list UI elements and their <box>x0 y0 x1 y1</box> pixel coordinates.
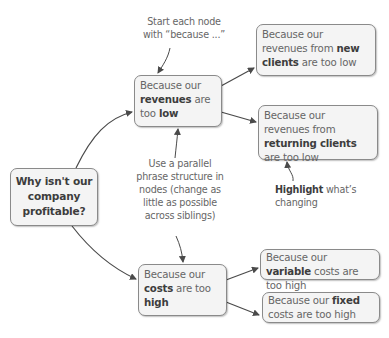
root-node: Why isn't our company profitable? <box>10 168 98 226</box>
annotation-line: what’s <box>326 184 356 195</box>
annotation-start-because: Start each node with “because ...” <box>128 15 240 41</box>
annotation-arrow-parallel-up <box>175 129 178 158</box>
node-revenues: Because our revenues are too low <box>134 75 222 127</box>
annotation-line: Start each node <box>128 15 240 28</box>
node-text: Because our <box>144 269 205 280</box>
annotation-line: changing <box>275 196 375 209</box>
arrow-root-to-costs <box>72 226 136 279</box>
highlight-text: fixed <box>332 295 360 306</box>
arrow-revenues-to-new <box>221 68 254 86</box>
node-text: are too low <box>299 57 357 68</box>
node-new-clients: Because our revenues from new clients ar… <box>256 24 376 76</box>
annotation-line: nodes (change as <box>128 183 232 196</box>
annotation-line: little as possible <box>128 196 232 209</box>
node-variable-costs: Because our variable costs are too high <box>260 249 380 280</box>
arrow-root-to-revenues <box>76 112 132 168</box>
node-text: Because our <box>268 295 332 306</box>
node-returning-clients: Because our revenues from returning clie… <box>258 105 378 160</box>
annotation-line: across siblings) <box>128 209 232 222</box>
root-line-2: company <box>14 189 94 204</box>
node-text: Because our <box>140 80 201 91</box>
annotation-line: Use a parallel <box>128 157 232 170</box>
node-text: costs are too high <box>268 309 356 320</box>
node-text: Because our <box>266 252 327 263</box>
annotation-arrow-parallel-down <box>176 236 183 262</box>
node-text: are too low <box>264 152 319 163</box>
annotation-line: with “because ...” <box>128 28 240 41</box>
annotation-highlight: Highlight what’s changing <box>275 183 375 209</box>
annotation-arrow-start <box>158 48 170 73</box>
annotation-parallel-structure: Use a parallel phrase structure in nodes… <box>128 157 232 222</box>
highlight-text: returning clients <box>264 138 357 149</box>
annotation-line: phrase structure in <box>128 170 232 183</box>
arrow-costs-to-fixed <box>226 302 259 315</box>
highlight-text: variable <box>266 266 311 277</box>
node-costs: Because our costs are too high <box>138 264 227 316</box>
root-line-1: Why isn't our <box>14 174 94 189</box>
highlight-text: high <box>144 297 169 308</box>
root-line-3: profitable? <box>14 204 94 219</box>
highlight-text: low <box>159 108 178 119</box>
highlight-text: costs <box>144 283 173 294</box>
annotation-bold: Highlight <box>275 184 323 195</box>
highlight-text: revenues <box>140 94 191 105</box>
node-text: are too <box>173 283 211 294</box>
issue-tree-diagram: Why isn't our company profitable? Becaus… <box>0 0 389 338</box>
node-text: Because our revenues from <box>262 29 336 54</box>
arrow-revenues-to-returning <box>221 112 256 122</box>
arrow-costs-to-variable <box>226 268 258 280</box>
node-text: Because our revenues from <box>264 110 335 135</box>
node-fixed-costs: Because our fixed costs are too high <box>262 292 380 323</box>
